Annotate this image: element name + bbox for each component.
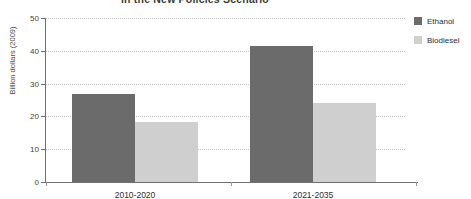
x-axis-tick-mark (231, 182, 232, 186)
plot-area: 01020304050 2010-20202021-2035 (45, 18, 405, 182)
y-axis-tick-mark (41, 84, 45, 85)
y-axis-tick-label: 30 (30, 79, 39, 88)
x-axis-tick-label: 2010-2020 (115, 190, 156, 199)
y-axis-tick-label: 40 (30, 46, 39, 55)
bar-biodiesel-2010-2020 (135, 122, 198, 182)
gridline (46, 84, 405, 85)
legend-swatch-icon (414, 17, 422, 25)
y-axis-tick-mark (41, 116, 45, 117)
legend-swatch-icon (414, 36, 422, 44)
legend-label: Ethanol (427, 17, 454, 26)
y-axis-tick-label: 50 (30, 14, 39, 23)
legend-item-biodiesel[interactable]: Biodiesel (414, 35, 459, 45)
legend-label: Biodiesel (427, 36, 459, 45)
bar-ethanol-2010-2020 (72, 94, 135, 182)
gridline (46, 18, 405, 19)
y-axis-title: Billion dollars (2009) (8, 1, 17, 121)
legend-item-ethanol[interactable]: Ethanol (414, 16, 459, 26)
y-axis-tick-mark (41, 18, 45, 19)
gridline (46, 51, 405, 52)
y-axis-tick-mark (41, 182, 45, 183)
y-axis-tick-mark (41, 149, 45, 150)
x-axis-tick-mark (416, 182, 417, 186)
bar-ethanol-2021-2035 (250, 46, 313, 182)
bar-chart: in the New Policies Scenario Billion dol… (0, 0, 471, 199)
y-axis-tick-mark (41, 51, 45, 52)
x-axis-tick-label: 2021-2035 (293, 190, 334, 199)
chart-legend: Ethanol Biodiesel (414, 16, 459, 54)
y-axis-tick-label: 10 (30, 145, 39, 154)
chart-title: in the New Policies Scenario (0, 0, 390, 5)
bar-biodiesel-2021-2035 (313, 103, 376, 182)
x-axis-tick-mark (46, 182, 47, 186)
y-axis-line (45, 18, 46, 182)
y-axis-tick-label: 20 (30, 112, 39, 121)
y-axis-tick-label: 0 (35, 178, 39, 187)
